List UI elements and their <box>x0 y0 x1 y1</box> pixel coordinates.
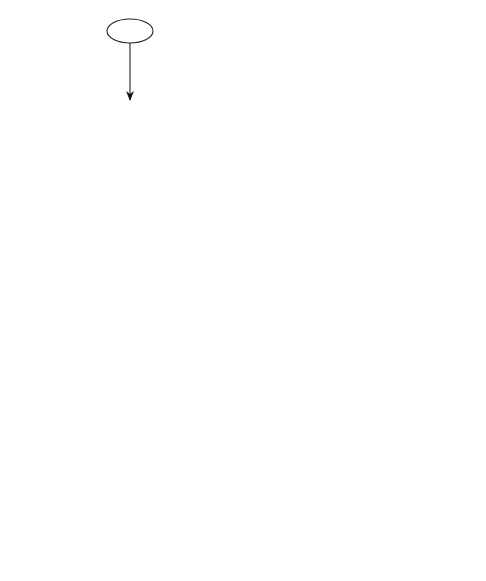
client-node <box>107 19 153 43</box>
hierarchy-diagram <box>0 0 486 581</box>
